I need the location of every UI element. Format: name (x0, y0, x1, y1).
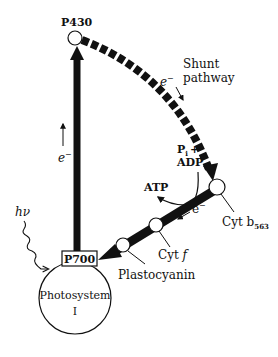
p700-to-p430-arrow (70, 46, 84, 252)
cyclic-electron-flow-diagram: e− e− e− Shunt pathway Pi+ ADP ATP P430 … (0, 0, 278, 357)
electron-up-arrow: e− (58, 124, 72, 165)
atp-label: ATP (143, 181, 168, 194)
cyt-f-label: Cyt f (158, 248, 190, 262)
adp-label: ADP (176, 156, 203, 169)
shunt-pathway-label-line1: Shunt (183, 57, 219, 71)
cyt-f-leader (159, 231, 170, 247)
p700-label: P700 (64, 253, 96, 266)
photosystem-label-line2: I (73, 305, 77, 318)
electron-label-chain: e− (192, 201, 206, 216)
light-wavy-arrow (23, 221, 48, 269)
electron-label-vertical: e− (58, 150, 72, 165)
cyt-b563-leader (221, 194, 234, 212)
cyt-f-node (149, 218, 163, 232)
p430-node (68, 31, 82, 45)
plastocyanin-label: Plastocyanin (118, 268, 195, 282)
cyt-b563-label: Cyt b563 (222, 215, 269, 231)
photosystem-label-line1: Photosystem (39, 289, 111, 302)
plastocyanin-node (116, 238, 130, 252)
plastocyanin-leader (128, 251, 145, 264)
shunt-pathway-label-line2: pathway (183, 71, 235, 85)
electron-label-shunt: e− (160, 74, 174, 89)
light-label: hν (15, 205, 30, 219)
p430-label: P430 (61, 16, 93, 29)
cyt-b563-node (209, 179, 225, 195)
